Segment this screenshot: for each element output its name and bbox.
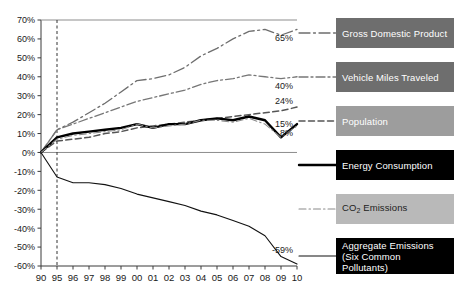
- x-tick-label: 02: [164, 272, 175, 283]
- x-tick-label: 99: [116, 272, 127, 283]
- y-tick-label: 10%: [17, 129, 35, 139]
- x-tick-label: 98: [100, 272, 111, 283]
- legend-label-gross-domestic-product: Gross Domestic Product: [342, 28, 447, 39]
- legend-label-population: Population: [342, 116, 388, 127]
- legend-item-gross-domestic-product[interactable]: Gross Domestic Product: [336, 18, 454, 48]
- legend-item-vehicle-miles-traveled[interactable]: Vehicle Miles Traveled: [336, 62, 454, 92]
- y-tick-label: 40%: [17, 72, 35, 82]
- y-tick-label: -60%: [14, 261, 35, 271]
- series-line-gdp: [41, 29, 297, 152]
- x-tick-label: 04: [196, 272, 207, 283]
- y-tick-label: 20%: [17, 110, 35, 120]
- series-line-population: [41, 107, 297, 152]
- x-tick-label: 97: [84, 272, 95, 283]
- y-tick-label: 30%: [17, 91, 35, 101]
- chart-figure: 70%60%50%40%30%20%10%0%-10%-20%-30%-40%-…: [0, 0, 454, 297]
- label-vmt-40: 40%: [275, 81, 293, 91]
- legend-label-aggregate-emissions-line1: Aggregate Emissions: [342, 240, 434, 251]
- x-tick-label: 00: [132, 272, 143, 283]
- y-tick-label: 70%: [17, 15, 35, 25]
- label-population-24: 24%: [275, 96, 293, 106]
- x-tick-label: 05: [212, 272, 223, 283]
- x-tick-label: 06: [228, 272, 239, 283]
- legend-item-population[interactable]: Population: [336, 106, 454, 136]
- y-tick-label: 60%: [17, 34, 35, 44]
- label-aggregate-59: -59%: [272, 245, 293, 255]
- legend-item-energy-consumption[interactable]: Energy Consumption: [336, 150, 454, 180]
- label-gdp-65: 65%: [275, 33, 293, 43]
- data-point-labels: 65%40%24%15%8%-59%: [272, 33, 293, 254]
- legend-label-co2-emissions: CO2 Emissions: [342, 202, 407, 216]
- x-tick-label: 90: [36, 272, 47, 283]
- x-tick-label: 95: [52, 272, 63, 283]
- y-tick-label: 0%: [22, 148, 35, 158]
- y-tick-label: 50%: [17, 53, 35, 63]
- x-tick-label: 10: [292, 272, 303, 283]
- legend-label-vehicle-miles-traveled: Vehicle Miles Traveled: [342, 72, 439, 83]
- legend-item-aggregate-emissions[interactable]: Aggregate Emissions (Six Common Pollutan…: [336, 238, 454, 274]
- series-line-aggregate: [41, 152, 297, 264]
- x-tick-label: 01: [148, 272, 159, 283]
- legend-item-co2-emissions[interactable]: CO2 Emissions: [336, 194, 454, 224]
- label-energy-8: 8%: [280, 128, 293, 138]
- x-tick-label: 07: [244, 272, 255, 283]
- legend-label-energy-consumption: Energy Consumption: [342, 160, 433, 171]
- y-tick-label: -40%: [14, 224, 35, 234]
- x-tick-label: 03: [180, 272, 191, 283]
- legend-label-aggregate-emissions: Aggregate Emissions (Six Common Pollutan…: [342, 240, 448, 273]
- y-tick-label: -30%: [14, 205, 35, 215]
- legend-label-aggregate-emissions-line2: (Six Common Pollutants): [342, 251, 401, 273]
- y-axis-tick-labels: 70%60%50%40%30%20%10%0%-10%-20%-30%-40%-…: [14, 15, 35, 271]
- y-tick-label: -50%: [14, 242, 35, 252]
- y-tick-label: -20%: [14, 186, 35, 196]
- x-tick-label: 09: [276, 272, 287, 283]
- y-tick-label: -10%: [14, 167, 35, 177]
- x-axis-tick-labels: 9095969798990001020304050607080910: [36, 272, 303, 283]
- data-series-group: [41, 29, 336, 264]
- x-tick-label: 08: [260, 272, 271, 283]
- x-tick-label: 96: [68, 272, 79, 283]
